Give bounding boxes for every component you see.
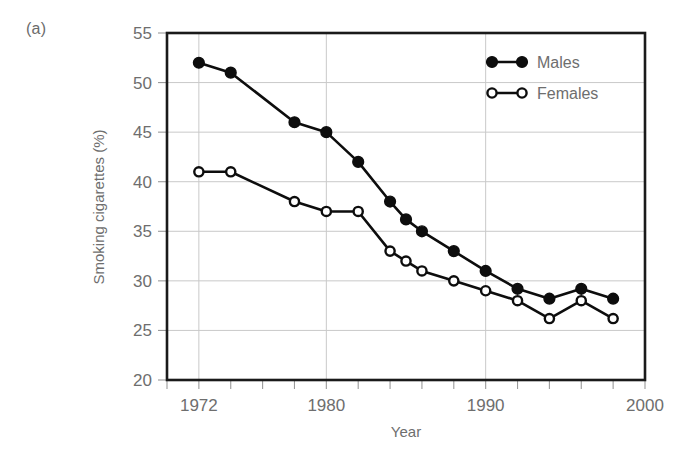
y-tickmarks — [158, 33, 167, 380]
legend-label: Females — [537, 85, 598, 102]
data-point — [513, 296, 522, 305]
data-point — [481, 286, 490, 295]
data-point — [354, 207, 363, 216]
x-axis-title: Year — [391, 423, 421, 440]
legend-item-males: Males — [487, 54, 580, 71]
data-point — [480, 266, 491, 277]
x-tick-label: 1990 — [467, 396, 505, 415]
x-tick-label: 1980 — [307, 396, 345, 415]
data-point — [289, 117, 300, 128]
data-point — [545, 314, 554, 323]
data-point — [609, 314, 618, 323]
y-tick-label: 55 — [133, 24, 152, 43]
y-axis-title: Smoking cigarettes (%) — [90, 129, 107, 284]
legend-label: Males — [537, 54, 580, 71]
data-point — [322, 207, 331, 216]
data-point — [401, 256, 410, 265]
y-tick-label: 45 — [133, 123, 152, 142]
data-point — [512, 283, 523, 294]
data-point — [417, 266, 426, 275]
y-tick-label: 30 — [133, 272, 152, 291]
y-tick-labels: 2025303540455055 — [133, 24, 152, 390]
y-tick-label: 20 — [133, 371, 152, 390]
y-tick-label: 35 — [133, 222, 152, 241]
smoking-cigarettes-line-chart: 2025303540455055 1972198019902000 MalesF… — [0, 0, 696, 465]
data-point — [544, 293, 555, 304]
data-point — [194, 167, 203, 176]
legend-marker — [517, 57, 528, 68]
data-point — [576, 283, 587, 294]
y-tick-label: 40 — [133, 173, 152, 192]
data-point — [417, 226, 428, 237]
y-tick-label: 25 — [133, 321, 152, 340]
data-point — [577, 296, 586, 305]
data-point — [448, 246, 459, 257]
data-point — [225, 67, 236, 78]
data-point — [290, 197, 299, 206]
x-tick-label: 2000 — [626, 396, 664, 415]
data-point — [353, 156, 364, 167]
x-tick-label: 1972 — [180, 396, 218, 415]
x-tickmarks — [167, 380, 645, 389]
x-gridlines — [199, 33, 486, 380]
legend-marker — [487, 57, 498, 68]
legend-marker — [517, 88, 526, 97]
legend-item-females: Females — [487, 85, 598, 102]
data-point — [321, 127, 332, 138]
data-point — [193, 57, 204, 68]
data-point — [385, 196, 396, 207]
x-tick-labels: 1972198019902000 — [180, 396, 664, 415]
data-point — [449, 276, 458, 285]
data-point — [608, 293, 619, 304]
data-point — [401, 214, 412, 225]
y-tick-label: 50 — [133, 74, 152, 93]
y-gridlines — [167, 83, 645, 331]
data-point — [385, 247, 394, 256]
chart-legend: MalesFemales — [487, 54, 599, 102]
data-point — [226, 167, 235, 176]
legend-marker — [487, 88, 496, 97]
figure-panel-a: (a) 2025303540455055 1972198019902000 Ma… — [0, 0, 696, 465]
